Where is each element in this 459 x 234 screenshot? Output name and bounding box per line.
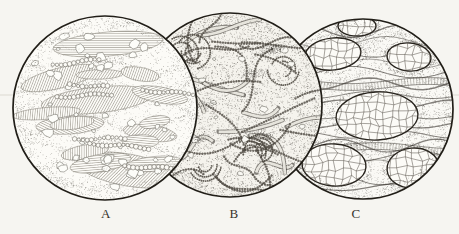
figure-plate: A B C <box>0 0 459 234</box>
figure-svg <box>0 0 459 234</box>
panel-label-c: C <box>351 207 360 220</box>
panel-label-b: B <box>229 207 238 220</box>
panel-label-a: A <box>101 207 111 220</box>
